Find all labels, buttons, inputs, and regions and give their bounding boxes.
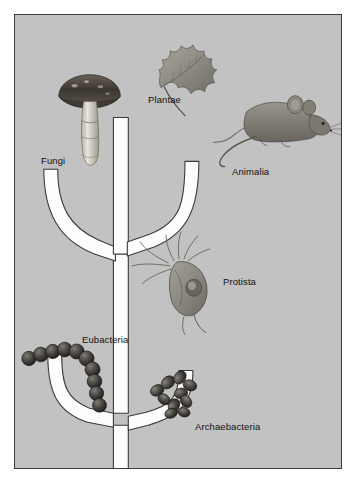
label-fungi: Fungi [41, 156, 65, 166]
diagram-panel: Fungi Plantae Animalia Protista Eubacter… [14, 14, 342, 469]
branch-fungi [44, 169, 116, 261]
mushroom-illustration [59, 75, 121, 166]
figure-root: Fungi Plantae Animalia Protista Eubacter… [0, 0, 355, 484]
root-trunk [113, 425, 128, 468]
phylogenetic-tree-svg [15, 15, 341, 468]
label-protista: Protista [223, 277, 256, 287]
label-plantae: Plantae [148, 95, 181, 105]
branch-animalia [127, 161, 199, 256]
label-eubacteria: Eubacteria [82, 335, 128, 345]
label-animalia: Animalia [232, 167, 269, 177]
branch-eubacteria [48, 355, 114, 428]
mouse-illustration [214, 96, 341, 167]
label-archaebacteria: Archaebacteria [195, 422, 260, 432]
branch-plantae [113, 118, 128, 254]
